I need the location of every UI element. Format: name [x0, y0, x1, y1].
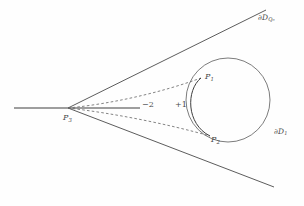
circle-boundary-d1	[186, 58, 270, 142]
dashed-curve-lower	[68, 108, 210, 136]
label-point-p3: P3	[63, 114, 72, 123]
label-boundary-disc-q0: ∂DQ₀	[258, 14, 275, 23]
lens-arc-left	[191, 78, 210, 136]
geometry-figure: ∂DQ₀ ∂D1 P1 P2 P3 −2 +1	[0, 0, 304, 206]
label-point-p2: P2	[211, 136, 220, 145]
tangent-line-lower	[68, 108, 274, 187]
label-multiplicity-plus-one: +1	[175, 101, 187, 109]
label-multiplicity-minus-two: −2	[142, 101, 154, 109]
label-point-p1: P1	[205, 73, 214, 82]
label-boundary-disc-d1: ∂D1	[274, 128, 288, 137]
